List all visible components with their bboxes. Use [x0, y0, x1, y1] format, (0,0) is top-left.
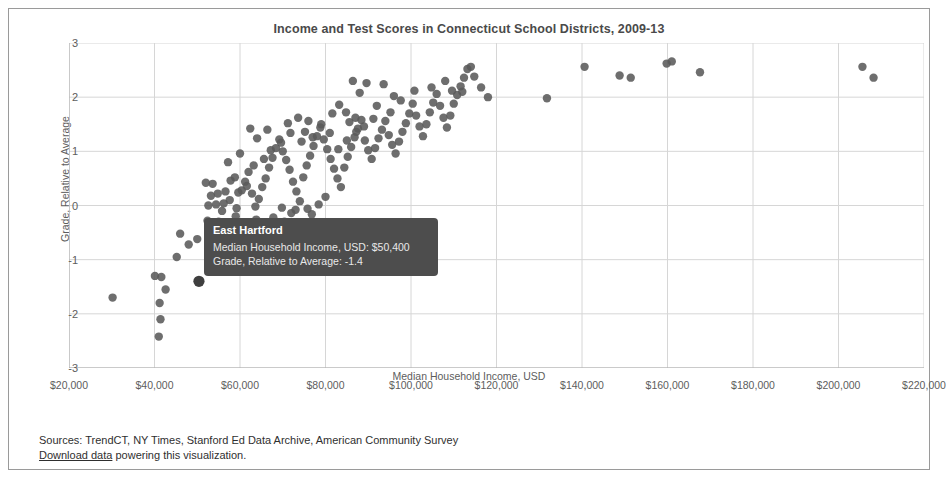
- data-point-highlighted[interactable]: [193, 276, 204, 287]
- data-point: [289, 177, 297, 185]
- data-point: [279, 147, 287, 155]
- data-point: [253, 134, 261, 142]
- data-point: [385, 131, 393, 139]
- data-point: [374, 134, 382, 142]
- data-point: [391, 149, 399, 157]
- data-point: [260, 155, 268, 163]
- data-point: [317, 120, 325, 128]
- data-point: [226, 196, 234, 204]
- data-point: [342, 108, 350, 116]
- scatter-plot[interactable]: [69, 43, 924, 368]
- download-data-link[interactable]: Download data: [39, 449, 112, 461]
- data-point: [224, 158, 232, 166]
- data-point: [340, 163, 348, 171]
- data-point: [477, 83, 485, 91]
- data-point: [308, 133, 316, 141]
- data-point: [337, 183, 345, 191]
- tooltip: East Hartford Median Household Income, U…: [204, 218, 438, 276]
- data-point: [202, 179, 210, 187]
- data-point: [320, 135, 328, 143]
- data-point: [443, 123, 451, 131]
- y-tick-label: 1: [38, 145, 78, 157]
- data-point: [155, 299, 163, 307]
- data-point: [352, 128, 360, 136]
- data-point: [334, 145, 342, 153]
- x-axis-label: Median Household Income, USD: [9, 370, 929, 382]
- data-point: [212, 200, 220, 208]
- data-point: [108, 293, 116, 301]
- data-point: [395, 137, 403, 145]
- data-point: [304, 117, 312, 125]
- data-point: [282, 156, 290, 164]
- data-point: [356, 89, 364, 97]
- data-point: [285, 166, 293, 174]
- data-point: [204, 201, 212, 209]
- data-point: [261, 174, 269, 182]
- data-point: [422, 120, 430, 128]
- data-point: [218, 207, 226, 215]
- data-point: [176, 229, 184, 237]
- data-point: [292, 187, 300, 195]
- data-point: [378, 125, 386, 133]
- data-point: [402, 119, 410, 127]
- data-point: [277, 138, 285, 146]
- data-point: [371, 144, 379, 152]
- data-point: [427, 83, 435, 91]
- data-point: [248, 189, 256, 197]
- data-point: [278, 203, 286, 211]
- footer-sources: Sources: TrendCT, NY Times, Stanford Ed …: [39, 433, 458, 448]
- data-point: [291, 206, 299, 214]
- data-point: [193, 235, 201, 243]
- data-point: [450, 99, 458, 107]
- data-point: [448, 86, 456, 94]
- data-point: [268, 154, 276, 162]
- data-point: [627, 73, 635, 81]
- data-point: [858, 63, 866, 71]
- data-point: [303, 205, 311, 213]
- chart-card: Income and Test Scores in Connecticut Sc…: [8, 8, 930, 470]
- data-point: [296, 197, 304, 205]
- data-point: [351, 114, 359, 122]
- data-point: [330, 164, 338, 172]
- data-point: [214, 189, 222, 197]
- data-point: [419, 132, 427, 140]
- data-point: [668, 57, 676, 65]
- page-title: Income and Test Scores in Connecticut Sc…: [9, 22, 929, 36]
- data-point: [185, 240, 193, 248]
- data-point: [286, 129, 294, 137]
- data-point: [398, 128, 406, 136]
- data-point: [306, 151, 314, 159]
- data-point: [412, 111, 420, 119]
- data-point: [467, 63, 475, 71]
- footer: Sources: TrendCT, NY Times, Stanford Ed …: [39, 433, 458, 463]
- data-point: [436, 102, 444, 110]
- data-point: [236, 149, 244, 157]
- data-point: [381, 117, 389, 125]
- tooltip-row-grade: Grade, Relative to Average: -1.4: [213, 254, 429, 268]
- data-point: [251, 202, 259, 210]
- y-tick-label: 0: [38, 200, 78, 212]
- data-point: [458, 88, 466, 96]
- data-point: [349, 77, 357, 85]
- data-point: [314, 200, 322, 208]
- data-point: [232, 204, 240, 212]
- data-point: [360, 122, 368, 130]
- data-point: [156, 315, 164, 323]
- data-point: [367, 155, 375, 163]
- data-point: [249, 161, 257, 169]
- data-point: [326, 129, 334, 137]
- data-point: [302, 161, 310, 169]
- data-point: [335, 101, 343, 109]
- data-point: [258, 183, 266, 191]
- y-tick-label: 2: [38, 91, 78, 103]
- data-point: [386, 108, 394, 116]
- data-point: [157, 273, 165, 281]
- data-point: [409, 99, 417, 107]
- tooltip-row-income: Median Household Income, USD: $50,400: [213, 240, 429, 254]
- tooltip-title: East Hartford: [213, 224, 429, 236]
- data-point: [294, 114, 302, 122]
- data-point: [460, 73, 468, 81]
- data-point: [379, 80, 387, 88]
- data-point: [696, 68, 704, 76]
- data-point: [343, 136, 351, 144]
